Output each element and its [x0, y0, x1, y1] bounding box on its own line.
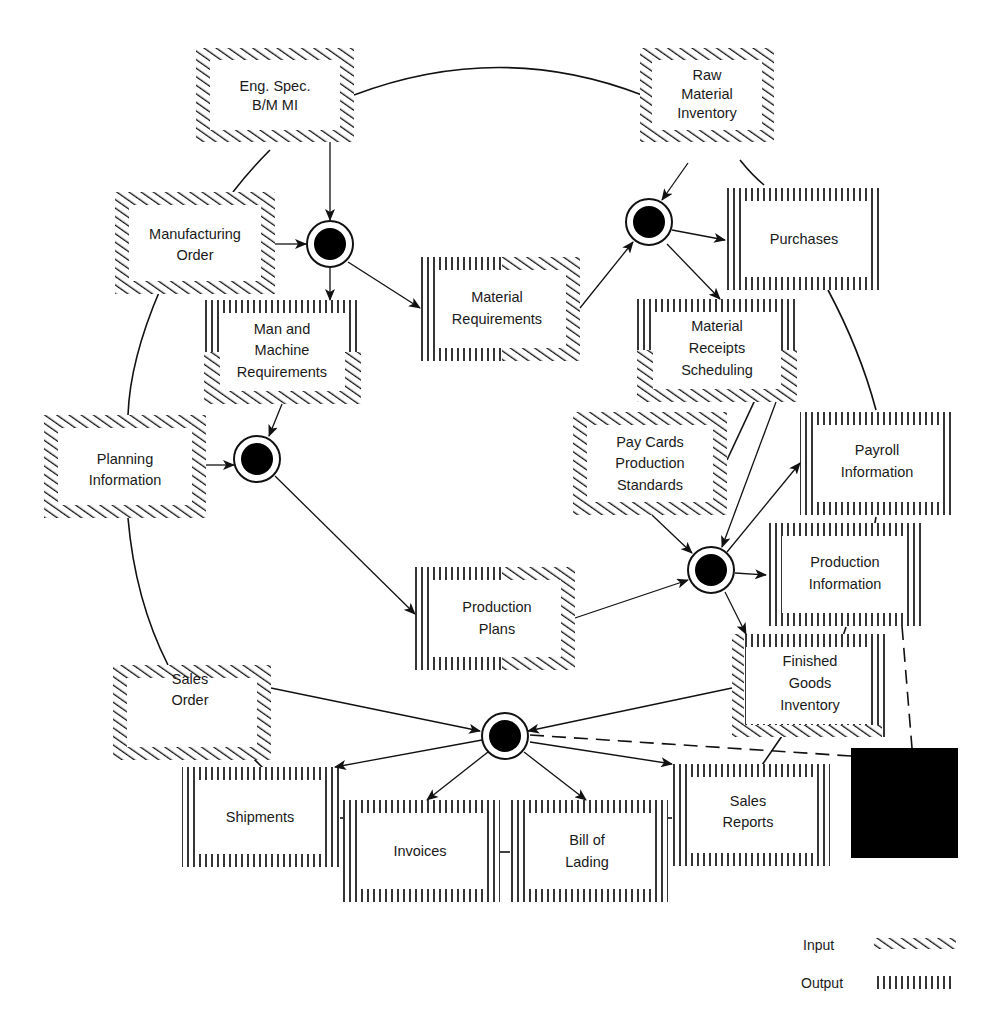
svg-text:Shipments: Shipments [226, 809, 295, 825]
svg-text:Order: Order [171, 692, 208, 708]
svg-text:Information: Information [809, 576, 882, 592]
svg-text:Material: Material [691, 318, 743, 334]
svg-text:Manufacturing: Manufacturing [149, 226, 241, 242]
svg-text:Man and: Man and [254, 321, 310, 337]
svg-text:Eng. Spec.: Eng. Spec. [240, 78, 311, 94]
svg-text:Receipts: Receipts [689, 340, 745, 356]
legend-input-label: Input [803, 937, 834, 953]
legend-input-swatch [874, 938, 956, 949]
box-material-receipts-scheduling: Material Receipts Scheduling [637, 299, 797, 402]
box-pay-cards-production-standards: Pay Cards Production Standards [573, 412, 727, 515]
svg-text:Information: Information [841, 464, 914, 480]
box-purchases: Purchases [725, 188, 883, 290]
svg-text:Plans: Plans [479, 621, 515, 637]
box-payroll-information: Payroll Information [800, 412, 955, 515]
box-sales-reports: Sales Reports [672, 764, 830, 866]
svg-text:Production: Production [462, 599, 531, 615]
box-raw-material-inventory: Raw Material Inventory [640, 48, 774, 142]
box-man-and-machine-requirements: Man and Machine Requirements [204, 300, 361, 404]
svg-text:Material: Material [471, 289, 523, 305]
data-flow-diagram: Eng. Spec. B/M MI Raw Material Inventory… [0, 0, 1003, 1027]
process-node-2 [626, 199, 672, 245]
process-node-1 [307, 221, 353, 267]
svg-text:Order: Order [176, 247, 213, 263]
legend: Input Output [801, 937, 956, 991]
svg-text:Lading: Lading [565, 854, 609, 870]
svg-text:Goods: Goods [789, 675, 832, 691]
svg-text:Raw: Raw [692, 67, 722, 83]
box-bill-of-lading: Bill of Lading [510, 800, 668, 902]
svg-text:Machine: Machine [255, 342, 310, 358]
svg-text:Information: Information [89, 472, 162, 488]
svg-text:Pay Cards: Pay Cards [616, 434, 684, 450]
svg-text:Material: Material [681, 86, 733, 102]
legend-output-swatch [875, 976, 955, 989]
svg-text:B/M MI: B/M MI [252, 97, 298, 113]
svg-text:Sales: Sales [730, 793, 766, 809]
svg-text:Standards: Standards [617, 477, 683, 493]
svg-text:Sales: Sales [172, 671, 208, 687]
svg-text:Requirements: Requirements [452, 311, 542, 327]
svg-text:Reports: Reports [723, 814, 774, 830]
box-planning-information: Planning Information [44, 415, 206, 518]
box-shipments: Shipments [182, 767, 340, 867]
box-finished-goods-inventory: Finished Goods Inventory [732, 634, 889, 737]
svg-text:Finished: Finished [783, 653, 838, 669]
svg-text:Inventory: Inventory [780, 697, 840, 713]
process-node-4 [688, 547, 734, 593]
svg-text:Planning: Planning [97, 451, 153, 467]
svg-text:Production: Production [615, 455, 684, 471]
box-production-information: Production Information [766, 523, 921, 626]
box-eng-spec: Eng. Spec. B/M MI [196, 48, 354, 142]
box-material-requirements: Material Requirements [420, 257, 580, 361]
svg-text:Inventory: Inventory [677, 105, 737, 121]
svg-text:Production: Production [810, 554, 879, 570]
box-production-plans: Production Plans [415, 567, 575, 670]
svg-text:Scheduling: Scheduling [681, 362, 753, 378]
process-node-3 [234, 436, 280, 482]
box-manufacturing-order: Manufacturing Order [115, 192, 275, 294]
box-invoices: Invoices [343, 800, 500, 902]
svg-text:Purchases: Purchases [770, 231, 839, 247]
svg-text:Invoices: Invoices [393, 843, 446, 859]
process-node-5 [482, 713, 528, 759]
box-sales-order: Sales Order [113, 665, 271, 760]
legend-output-label: Output [801, 975, 843, 991]
svg-text:Requirements: Requirements [237, 364, 327, 380]
svg-text:Bill of: Bill of [569, 832, 605, 848]
svg-text:Payroll: Payroll [855, 442, 899, 458]
